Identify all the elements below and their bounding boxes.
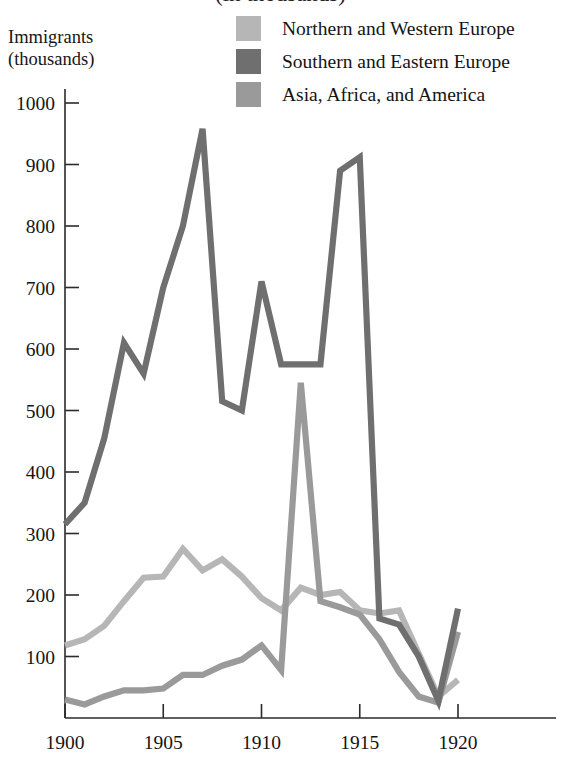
y-tick-label: 200 [26, 585, 55, 606]
y-tick-label: 300 [26, 524, 55, 545]
x-tick-label: 1900 [46, 732, 85, 753]
plot-svg: 1002003004005006007008009001000 19001905… [0, 0, 561, 763]
x-axis-ticks: 19001905191019151920 [46, 704, 478, 753]
y-tick-label: 500 [26, 401, 55, 422]
x-tick-label: 1920 [439, 732, 478, 753]
y-tick-label: 900 [26, 155, 55, 176]
y-tick-label: 1000 [16, 93, 55, 114]
y-tick-label: 700 [26, 278, 55, 299]
y-tick-label: 100 [26, 647, 55, 668]
immigration-line-chart: (in thousands) Immigrants (thousands) No… [0, 0, 561, 763]
series-lines [65, 129, 458, 705]
y-tick-label: 800 [26, 216, 55, 237]
series-line-asia-africa-and-america [65, 383, 458, 705]
y-axis-ticks: 1002003004005006007008009001000 [16, 93, 79, 668]
plot-area: 1002003004005006007008009001000 19001905… [0, 0, 561, 763]
y-tick-label: 600 [26, 339, 55, 360]
y-tick-label: 400 [26, 462, 55, 483]
x-tick-label: 1910 [242, 732, 281, 753]
x-tick-label: 1915 [340, 732, 379, 753]
x-tick-label: 1905 [144, 732, 183, 753]
